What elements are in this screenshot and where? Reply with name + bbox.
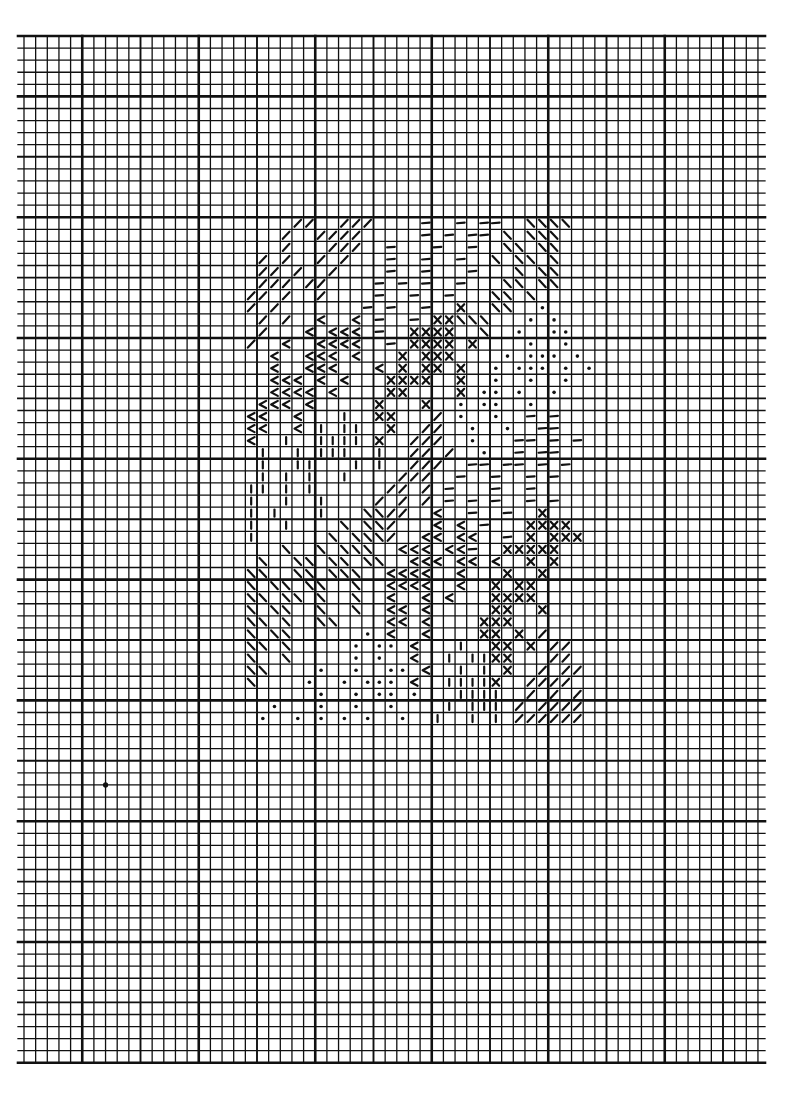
dot-stitch-symbol — [471, 427, 475, 431]
dot-stitch-symbol — [378, 644, 382, 648]
diagonal-forward-stitch-symbol — [248, 341, 255, 348]
chevron-stitch-symbol — [329, 328, 336, 335]
dot-stitch-symbol — [564, 342, 568, 346]
horizontal-dash-stitch-symbol — [504, 464, 512, 465]
diagonal-forward-stitch-symbol — [423, 498, 430, 505]
horizontal-dash-stitch-symbol — [562, 464, 570, 465]
diagonal-forward-stitch-symbol — [329, 268, 336, 275]
cross-stitch-symbol — [446, 328, 453, 335]
cross-stitch-symbol — [504, 546, 511, 553]
chevron-stitch-symbol — [260, 425, 267, 432]
diagonal-forward-stitch-symbol — [574, 691, 581, 698]
diagonal-back-stitch-symbol — [364, 510, 371, 517]
dot-stitch-symbol — [343, 680, 347, 684]
diagonal-back-stitch-symbol — [329, 534, 336, 541]
chevron-stitch-symbol — [423, 558, 430, 565]
chevron-stitch-symbol — [388, 594, 395, 601]
cross-stitch-symbol — [388, 425, 395, 432]
horizontal-dash-stitch-symbol — [422, 307, 430, 308]
diagonal-forward-stitch-symbol — [260, 280, 267, 287]
chevron-stitch-symbol — [388, 570, 395, 577]
chevron-stitch-symbol — [294, 389, 301, 396]
horizontal-dash-stitch-symbol — [387, 343, 395, 344]
diagonal-forward-stitch-symbol — [539, 630, 546, 637]
chevron-stitch-symbol — [306, 365, 313, 372]
cross-stitch-symbol — [527, 582, 534, 589]
dot-stitch-symbol — [564, 378, 568, 382]
diagonal-back-stitch-symbol — [248, 679, 255, 686]
diagonal-forward-stitch-symbol — [539, 703, 546, 710]
dot-stitch-symbol — [494, 378, 498, 382]
cross-stitch-symbol — [516, 630, 523, 637]
diagonal-forward-stitch-symbol — [388, 522, 395, 529]
diagonal-back-stitch-symbol — [516, 268, 523, 275]
chevron-stitch-symbol — [341, 328, 348, 335]
horizontal-dash-stitch-symbol — [399, 283, 407, 284]
dot-stitch-symbol — [389, 705, 393, 709]
chevron-stitch-symbol — [329, 365, 336, 372]
diagonal-back-stitch-symbol — [294, 594, 301, 601]
dot-stitch-symbol — [552, 330, 556, 334]
cross-stitch-symbol — [562, 534, 569, 541]
chevron-stitch-symbol — [318, 377, 325, 384]
horizontal-dash-stitch-symbol — [492, 488, 500, 489]
diagonal-forward-stitch-symbol — [283, 316, 290, 323]
diagonal-forward-stitch-symbol — [388, 485, 395, 492]
dot-stitch-symbol — [296, 717, 300, 721]
horizontal-dash-stitch-symbol — [410, 295, 418, 296]
diagonal-forward-stitch-symbol — [423, 485, 430, 492]
diagonal-forward-stitch-symbol — [353, 244, 360, 251]
diagonal-forward-stitch-symbol — [411, 449, 418, 456]
cross-stitch-symbol — [458, 304, 465, 311]
horizontal-dash-stitch-symbol — [550, 428, 558, 429]
diagonal-forward-stitch-symbol — [399, 510, 406, 517]
diagonal-back-stitch-symbol — [283, 546, 290, 553]
chevron-stitch-symbol — [493, 558, 500, 565]
cross-stitch-symbol — [551, 534, 558, 541]
cross-stitch-symbol — [551, 522, 558, 529]
dot-stitch-symbol — [459, 403, 463, 407]
horizontal-dash-stitch-symbol — [492, 500, 500, 501]
diagonal-forward-stitch-symbol — [539, 667, 546, 674]
chevron-stitch-symbol — [271, 401, 278, 408]
diagonal-forward-stitch-symbol — [271, 280, 278, 287]
dot-stitch-symbol — [319, 705, 323, 709]
horizontal-dash-stitch-symbol — [527, 500, 535, 501]
dot-stitch-symbol — [541, 306, 545, 310]
chevron-stitch-symbol — [423, 667, 430, 674]
chevron-stitch-symbol — [341, 341, 348, 348]
diagonal-forward-stitch-symbol — [318, 256, 325, 263]
horizontal-dash-stitch-symbol — [422, 271, 430, 272]
cross-stitch-symbol — [527, 522, 534, 529]
diagonal-forward-stitch-symbol — [341, 232, 348, 239]
chevron-stitch-symbol — [411, 582, 418, 589]
diagonal-forward-stitch-symbol — [329, 244, 336, 251]
diagonal-forward-stitch-symbol — [423, 461, 430, 468]
horizontal-dash-stitch-symbol — [550, 440, 558, 441]
chevron-stitch-symbol — [434, 522, 441, 529]
dot-stitch-symbol — [494, 403, 498, 407]
horizontal-dash-stitch-symbol — [539, 464, 547, 465]
dot-stitch-symbol — [552, 354, 556, 358]
horizontal-dash-stitch-symbol — [469, 500, 477, 501]
diagonal-forward-stitch-symbol — [318, 292, 325, 299]
diagonal-forward-stitch-symbol — [260, 256, 267, 263]
chevron-stitch-symbol — [294, 377, 301, 384]
diagonal-back-stitch-symbol — [318, 594, 325, 601]
cross-stitch-symbol — [504, 594, 511, 601]
cross-stitch-symbol — [434, 316, 441, 323]
horizontal-dash-stitch-symbol — [387, 271, 395, 272]
chevron-stitch-symbol — [271, 353, 278, 360]
dot-stitch-symbol — [506, 354, 510, 358]
diagonal-forward-stitch-symbol — [260, 292, 267, 299]
diagonal-forward-stitch-symbol — [551, 691, 558, 698]
diagonal-back-stitch-symbol — [481, 316, 488, 323]
dot-stitch-symbol — [389, 668, 393, 672]
diagonal-forward-stitch-symbol — [516, 703, 523, 710]
diagonal-forward-stitch-symbol — [341, 256, 348, 263]
diagonal-back-stitch-symbol — [248, 630, 255, 637]
diagonal-back-stitch-symbol — [353, 582, 360, 589]
dot-stitch-symbol — [494, 366, 498, 370]
dot-stitch-symbol — [517, 391, 521, 395]
stitch-chart — [0, 0, 798, 1098]
